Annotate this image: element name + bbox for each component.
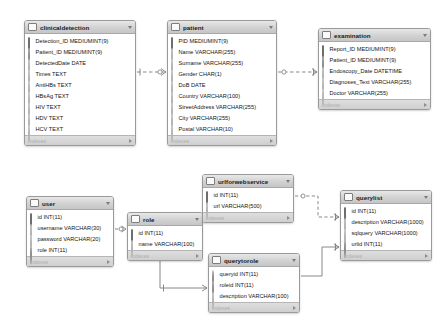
table-footer-indexes[interactable]: Indexes bbox=[319, 99, 430, 109]
table-icon bbox=[131, 215, 140, 223]
field-key-slot bbox=[30, 236, 35, 241]
field-label: AntiHBs TEXT bbox=[36, 82, 72, 88]
indexes-label: Indexes bbox=[206, 215, 224, 221]
field-key-slot bbox=[171, 126, 176, 131]
field-row[interactable]: Report_ID MEDIUMINT(9) bbox=[319, 43, 430, 54]
field-label: Doctor VARCHAR(255) bbox=[330, 90, 388, 96]
table-footer-indexes[interactable]: Indexes bbox=[25, 135, 135, 145]
field-row[interactable]: role INT(11) bbox=[27, 244, 113, 255]
table-header-examination[interactable]: examination bbox=[319, 29, 430, 42]
chevron-down-icon[interactable] bbox=[195, 218, 199, 221]
table-footer-indexes[interactable]: Indexes bbox=[209, 302, 299, 312]
table-fields: id INT(11)description VARCHAR(1000)sqlqu… bbox=[341, 204, 431, 250]
expand-arrow-icon[interactable] bbox=[270, 139, 273, 143]
field-row[interactable]: AntiHBs TEXT bbox=[25, 79, 135, 90]
field-row[interactable]: Country VARCHAR(100) bbox=[168, 90, 276, 101]
field-row[interactable]: description VARCHAR(1000) bbox=[341, 216, 431, 227]
table-header-querylist[interactable]: querylist bbox=[341, 191, 431, 204]
table-urlforwebservice[interactable]: urlforwebserviceid INT(11)url VARCHAR(50… bbox=[202, 174, 294, 223]
table-footer-indexes[interactable]: Indexes bbox=[128, 250, 202, 260]
table-header-urlforwebservice[interactable]: urlforwebservice bbox=[203, 175, 293, 188]
chevron-down-icon[interactable] bbox=[292, 259, 296, 262]
table-querylist[interactable]: querylistid INT(11)description VARCHAR(1… bbox=[340, 190, 432, 261]
table-icon bbox=[212, 256, 221, 264]
expand-arrow-icon[interactable] bbox=[196, 254, 199, 258]
field-key-slot bbox=[171, 82, 176, 87]
field-row[interactable]: City VARCHAR(255) bbox=[168, 112, 276, 123]
field-row[interactable]: Surname VARCHAR(255) bbox=[168, 57, 276, 68]
expand-arrow-icon[interactable] bbox=[129, 139, 132, 143]
table-header-role[interactable]: role bbox=[128, 213, 202, 226]
table-querytorole[interactable]: querytorolequeryid INT(11)roleid INT(11)… bbox=[208, 253, 300, 313]
table-footer-indexes[interactable]: Indexes bbox=[168, 135, 276, 145]
chevron-down-icon[interactable] bbox=[106, 202, 110, 205]
table-footer-indexes[interactable]: Indexes bbox=[203, 212, 293, 222]
field-key-slot bbox=[322, 90, 327, 95]
chevron-down-icon[interactable] bbox=[128, 26, 132, 29]
expand-arrow-icon[interactable] bbox=[293, 306, 296, 310]
field-row[interactable]: password VARCHAR(20) bbox=[27, 233, 113, 244]
field-row[interactable]: sqlquery VARCHAR(1000) bbox=[341, 227, 431, 238]
field-key-slot bbox=[171, 71, 176, 76]
field-key-slot bbox=[28, 60, 33, 65]
field-row[interactable]: Patient_ID MEDIUMINT(9) bbox=[319, 54, 430, 65]
table-footer-indexes[interactable]: Indexes bbox=[341, 250, 431, 260]
expand-arrow-icon[interactable] bbox=[107, 260, 110, 264]
chevron-down-icon[interactable] bbox=[424, 196, 428, 199]
field-row[interactable]: Detection_ID MEDIUMINT(9) bbox=[25, 35, 135, 46]
field-row[interactable]: PID MEDIUMINT(9) bbox=[168, 35, 276, 46]
field-row[interactable]: id INT(11) bbox=[128, 227, 202, 238]
field-row[interactable]: urlid INT(11) bbox=[341, 238, 431, 249]
chevron-down-icon[interactable] bbox=[286, 180, 290, 183]
table-role[interactable]: roleid INT(11)name VARCHAR(100)Indexes bbox=[127, 212, 203, 261]
table-examination[interactable]: examinationReport_ID MEDIUMINT(9)Patient… bbox=[318, 28, 431, 110]
table-fields: PID MEDIUMINT(9)Name VARCHAR(255)Surname… bbox=[168, 34, 276, 135]
table-user[interactable]: userid INT(11)username VARCHAR(30)passwo… bbox=[26, 196, 114, 267]
field-row[interactable]: Endoscopy_Date DATETIME bbox=[319, 65, 430, 76]
connector-querytorole-querylist bbox=[301, 244, 339, 277]
table-header-patient[interactable]: patient bbox=[168, 21, 276, 34]
expand-arrow-icon[interactable] bbox=[287, 216, 290, 220]
table-patient[interactable]: patientPID MEDIUMINT(9)Name VARCHAR(255)… bbox=[167, 20, 277, 146]
field-row[interactable]: Patient_ID MEDIUMINT(9) bbox=[25, 46, 135, 57]
table-header-clinicaldetection[interactable]: clinicaldetection bbox=[25, 21, 135, 34]
chevron-down-icon[interactable] bbox=[269, 26, 273, 29]
field-row[interactable]: id INT(11) bbox=[203, 189, 293, 200]
field-row[interactable]: Diagnoses_Text VARCHAR(255) bbox=[319, 76, 430, 87]
field-row[interactable]: DetectedDate DATE bbox=[25, 57, 135, 68]
field-row[interactable]: Gender CHAR(1) bbox=[168, 68, 276, 79]
field-row[interactable]: HIV TEXT bbox=[25, 101, 135, 112]
field-row[interactable]: HBsAg TEXT bbox=[25, 90, 135, 101]
field-row[interactable]: url VARCHAR(500) bbox=[203, 200, 293, 211]
field-label: id INT(11) bbox=[214, 192, 239, 198]
field-row[interactable]: description VARCHAR(100) bbox=[209, 290, 299, 301]
field-row[interactable]: id INT(11) bbox=[27, 211, 113, 222]
field-row[interactable]: username VARCHAR(30) bbox=[27, 222, 113, 233]
field-row[interactable]: roleid INT(11) bbox=[209, 279, 299, 290]
table-title: querylist bbox=[356, 194, 421, 201]
field-row[interactable]: name VARCHAR(100) bbox=[128, 238, 202, 249]
field-row[interactable]: StreetAddress VARCHAR(255) bbox=[168, 101, 276, 112]
field-label: id INT(11) bbox=[352, 208, 377, 214]
table-clinicaldetection[interactable]: clinicaldetectionDetection_ID MEDIUMINT(… bbox=[24, 20, 136, 146]
field-row[interactable]: Times TEXT bbox=[25, 68, 135, 79]
field-row[interactable]: HCV TEXT bbox=[25, 123, 135, 134]
table-footer-indexes[interactable]: Indexes bbox=[27, 256, 113, 266]
field-key-slot bbox=[28, 93, 33, 98]
expand-arrow-icon[interactable] bbox=[425, 254, 428, 258]
chevron-down-icon[interactable] bbox=[423, 34, 427, 37]
table-header-user[interactable]: user bbox=[27, 197, 113, 210]
field-row[interactable]: Postal VARCHAR(10) bbox=[168, 123, 276, 134]
field-row[interactable]: HDV TEXT bbox=[25, 112, 135, 123]
field-key-slot bbox=[131, 241, 136, 246]
table-header-querytorole[interactable]: querytorole bbox=[209, 254, 299, 267]
expand-arrow-icon[interactable] bbox=[424, 103, 427, 107]
field-row[interactable]: Name VARCHAR(255) bbox=[168, 46, 276, 57]
field-key-slot bbox=[212, 271, 217, 276]
field-row[interactable]: Doctor VARCHAR(255) bbox=[319, 87, 430, 98]
field-key-slot bbox=[206, 203, 211, 208]
field-label: DoB DATE bbox=[179, 82, 206, 88]
field-row[interactable]: DoB DATE bbox=[168, 79, 276, 90]
field-row[interactable]: id INT(11) bbox=[341, 205, 431, 216]
field-row[interactable]: queryid INT(11) bbox=[209, 268, 299, 279]
